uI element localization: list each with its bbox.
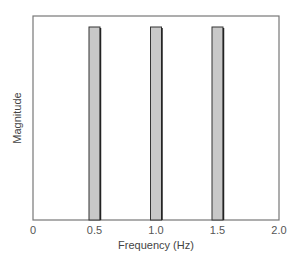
x-axis-label: Frequency (Hz)	[118, 239, 194, 251]
spectrum-chart: 00.51.01.52.0 Frequency (Hz) Magnitude	[0, 0, 302, 261]
x-tick-label: 0.5	[87, 224, 102, 236]
bar	[212, 27, 223, 220]
x-tick-label: 0	[30, 224, 36, 236]
bar	[151, 27, 162, 220]
x-tick-label: 2.0	[271, 224, 286, 236]
y-axis-label: Magnitude	[11, 92, 23, 143]
x-tick-labels: 00.51.01.52.0	[30, 224, 287, 236]
bar	[89, 27, 100, 220]
x-tick-label: 1.5	[210, 224, 225, 236]
x-tick-label: 1.0	[148, 224, 163, 236]
